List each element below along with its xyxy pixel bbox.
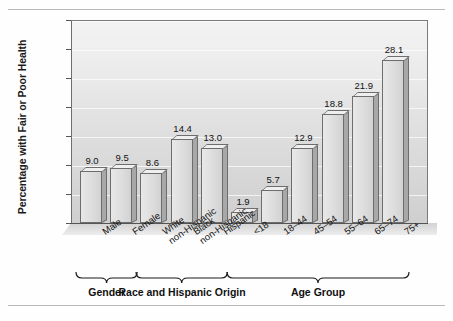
bar-value-label: 21.9 [345, 80, 383, 91]
bar-side-face [283, 187, 288, 223]
figure-container: Percentage with Fair or Poor Health 9.09… [0, 0, 453, 321]
x-tick-label: Whitenon-Hispanic [160, 228, 173, 246]
figure-top-rule [8, 9, 445, 10]
bar-side-face [193, 136, 198, 223]
gridline [72, 21, 427, 22]
bar: 18.8 [322, 114, 344, 223]
bar: 14.4 [171, 139, 193, 223]
bar: 9.5 [110, 168, 132, 223]
gridline [72, 50, 427, 51]
bar-value-label: 1.9 [224, 196, 262, 207]
bar-front-face [171, 139, 193, 223]
bar-value-label: 28.1 [375, 44, 413, 55]
bar-front-face [110, 168, 132, 223]
bar: 9.0 [80, 171, 102, 223]
bar-value-label: 8.6 [133, 157, 171, 168]
group-bracket [226, 272, 410, 283]
bar-front-face [291, 148, 313, 223]
y-tick-mark [66, 136, 71, 137]
group-label: Age Group [291, 286, 345, 298]
y-tick-mark [66, 107, 71, 108]
x-tick-label: Blacknon-Hispanic [191, 228, 204, 246]
bar-side-face [374, 93, 379, 223]
x-tick-label-line: non-Hispanic [197, 237, 203, 246]
bar-front-face [322, 114, 344, 223]
bar-value-label: 13.0 [194, 132, 232, 143]
bar-value-label: 5.7 [254, 174, 292, 185]
group-bracket [135, 272, 228, 283]
y-tick-mark [66, 49, 71, 50]
bar: 12.9 [291, 148, 313, 223]
plot-area: 9.09.58.614.413.01.95.712.918.821.928.1 [71, 20, 428, 223]
bar: 21.9 [352, 96, 374, 223]
bar-side-face [313, 145, 318, 223]
y-tick-mark [66, 20, 71, 21]
bar-side-face [344, 111, 349, 223]
x-axis-line [71, 223, 428, 224]
bar-side-face [223, 144, 228, 223]
bar-front-face [382, 60, 404, 223]
y-tick-mark [66, 223, 71, 224]
bar-front-face [352, 96, 374, 223]
y-tick-mark [66, 78, 71, 79]
bar-side-face [162, 170, 167, 223]
bar-value-label: 12.9 [284, 132, 322, 143]
bar: 28.1 [382, 60, 404, 223]
bar-front-face [80, 171, 102, 223]
bar-side-face [132, 165, 137, 223]
bar-value-label: 18.8 [315, 98, 353, 109]
group-bracket [75, 272, 138, 283]
group-label: Race and Hispanic Origin [118, 286, 245, 298]
bar: 5.7 [261, 190, 283, 223]
bar-front-face [261, 190, 283, 223]
y-tick-mark [66, 194, 71, 195]
y-axis-title: Percentage with Fair or Poor Health [16, 22, 28, 232]
x-tick-label-line: non-Hispanic [167, 237, 173, 246]
bar-side-face [404, 57, 409, 223]
bar-side-face [102, 168, 107, 223]
y-tick-mark [66, 165, 71, 166]
figure-bottom-rule [8, 305, 445, 306]
